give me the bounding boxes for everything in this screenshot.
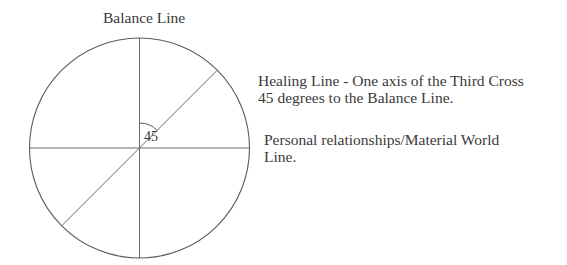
balance-line-label: Balance Line (103, 9, 185, 26)
healing-line-annotation: Healing Line - One axis of the Third Cro… (258, 72, 524, 106)
personal-line-annotation: Personal relationships/Material World Li… (264, 131, 499, 165)
personal-line-annotation-line2: Line. (264, 148, 499, 165)
healing-line-annotation-line1: Healing Line - One axis of the Third Cro… (258, 72, 524, 89)
healing-line-annotation-line2: 45 degrees to the Balance Line. (258, 89, 524, 106)
personal-line-annotation-line1: Personal relationships/Material World (264, 131, 499, 148)
angle-label: 45 (144, 129, 158, 144)
